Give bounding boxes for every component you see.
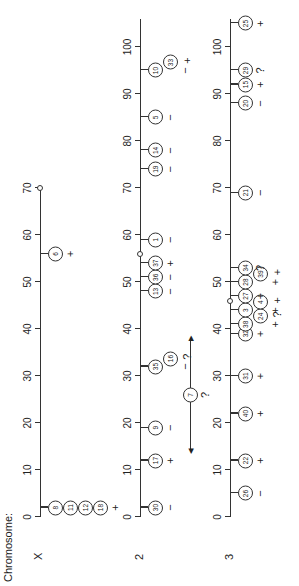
axis-tick [35,281,40,282]
phenotype-sign: − [180,67,191,73]
axis-tick-label: 60 [122,223,133,247]
axis-tick [135,469,140,470]
axis-tick [35,234,40,235]
gene-marker: 16 [163,351,178,366]
phenotype-sign: − [165,288,176,294]
phenotype-sign: + [110,504,121,510]
chromosome-2-label: 2 [133,554,145,560]
marker-stem [140,69,148,70]
chromosome-3-axis [230,19,231,517]
phenotype-sign: + [270,279,281,285]
arrow-right-icon: ▸ [185,335,196,341]
axis-tick-label: 50 [212,270,223,294]
phenotype-sign: − [165,147,176,153]
axis-tick [135,375,140,376]
gene-marker: 11 [63,500,78,515]
phenotype-sign: − [165,236,176,242]
phenotype-sign: + [255,410,266,416]
axis-tick-label: 70 [22,176,33,200]
phenotype-sign: + [65,251,76,257]
axis-tick-label: 70 [212,176,223,200]
phenotype-sign: + [272,269,283,275]
centromere-icon [37,185,43,191]
phenotype-sign: ? [200,392,211,398]
chromosome-2-axis [140,19,141,517]
marker-stem [140,427,148,428]
axis-tick-label: 40 [22,317,33,341]
marker-stem [140,262,148,263]
gene-marker: 38 [238,317,253,332]
axis-tick-label: 90 [122,82,133,106]
gene-marker: 1 [148,232,163,247]
marker-stem [230,375,238,376]
arrow-left-icon: ◂ [185,448,196,454]
axis-tick [35,375,40,376]
gene-marker: 19 [148,162,163,177]
axis-tick [35,516,40,517]
marker-stem [230,295,238,296]
axis-tick-label: 50 [22,270,33,294]
marker-stem [140,459,148,460]
phenotype-sign: + [270,307,281,313]
gene-marker: 37 [148,256,163,271]
axis-tick [225,422,230,423]
axis-tick-label: 70 [122,176,133,200]
axis-tick-label: 40 [122,317,133,341]
gene-marker: 15 [238,77,253,92]
phenotype-sign: − [255,100,266,106]
marker-stem [140,290,148,291]
chromosome-heading: Chromosome: [2,513,14,582]
phenotype-sign: ? [255,265,266,271]
axis-tick [135,46,140,47]
gene-marker: 36 [148,270,163,285]
gene-marker: 17 [148,453,163,468]
axis-tick-label: 90 [212,82,223,106]
axis-tick [135,140,140,141]
gene-marker: 29 [238,63,253,78]
gene-marker: 33 [163,55,178,70]
axis-tick [225,46,230,47]
gene-marker: 20 [238,96,253,111]
marker-stem [230,83,238,84]
axis-tick [135,516,140,517]
gene-marker: 25 [238,16,253,31]
axis-tick-label: 100 [212,35,223,59]
gene-marker: 12 [78,500,93,515]
marker-stem [230,459,238,460]
axis-tick [35,469,40,470]
axis-tick-label: 0 [212,505,223,529]
marker-stem [140,239,148,240]
gene-marker: 35 [148,359,163,374]
gene-marker: 28 [238,275,253,290]
gene-marker: 14 [148,143,163,158]
gene-marker: 40 [238,406,253,421]
gene-marker: 9 [148,420,163,435]
axis-tick [135,422,140,423]
phenotype-sign: ? [255,67,266,73]
gene-marker: 8 [48,500,63,515]
marker-stem [230,22,238,23]
axis-tick-label: 80 [122,129,133,153]
marker-stem [230,412,238,413]
axis-tick-label: 30 [212,364,223,388]
gene-marker: 21 [238,185,253,200]
axis-tick-label: 60 [22,223,33,247]
gene-marker: 13 [148,284,163,299]
gene-marker: 6 [48,246,63,261]
marker-stem [230,281,238,282]
marker-stem [140,365,148,366]
centromere-icon [227,298,233,304]
marker-stem [140,168,148,169]
phenotype-sign: − [165,274,176,280]
axis-tick [225,516,230,517]
gene-marker: 3 [238,303,253,318]
axis-tick-label: 20 [212,411,223,435]
phenotype-sign: + [255,330,266,336]
marker-stem [230,323,238,324]
phenotype-sign: + [255,20,266,26]
marker-stem [230,192,238,193]
axis-tick [225,140,230,141]
axis-tick [225,93,230,94]
phenotype-sign: + [255,457,266,463]
axis-tick [35,422,40,423]
